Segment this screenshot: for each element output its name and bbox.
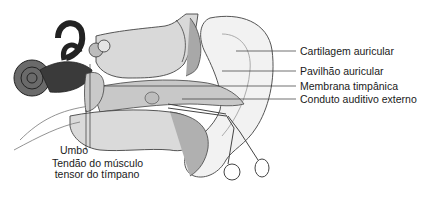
canal-nodule [145,92,159,104]
label-membrana-timpanica: Membrana timpânica [300,80,398,92]
label-cartilagem-auricular: Cartilagem auricular [300,45,394,57]
label-tendao-line2: tensor do tímpano [52,168,142,180]
upper-bone [96,14,198,78]
label-pavilhao-auricular: Pavilhão auricular [300,65,383,77]
label-conduto-auditivo-externo: Conduto auditivo externo [300,93,417,105]
label-umbo: Umbo [60,144,88,156]
